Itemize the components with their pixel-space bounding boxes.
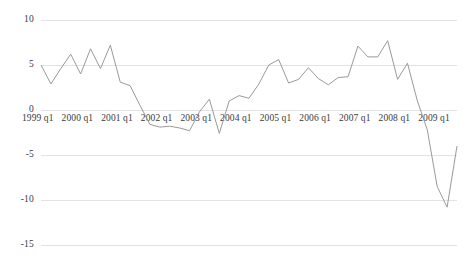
series-line [41, 41, 457, 208]
plot-area: 1050-5-10-15 1999 q12000 q12001 q12002 q… [0, 0, 467, 265]
line-chart: 1050-5-10-15 1999 q12000 q12001 q12002 q… [0, 0, 467, 265]
series-layer [0, 0, 467, 265]
